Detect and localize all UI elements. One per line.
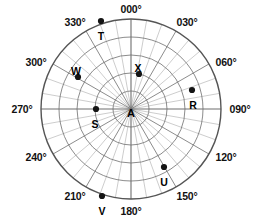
point-label-u: U [160,177,168,188]
point-label-r: R [189,100,197,111]
polar-plot-figure: 000°030°060°090°120°150°180°210°240°270°… [0,0,256,224]
angle-label-330: 330° [65,17,86,28]
angle-label-210: 210° [65,191,86,202]
angle-label-180: 180° [121,206,142,217]
angle-label-150: 150° [177,191,198,202]
angle-label-30: 030° [177,17,198,28]
point-label-v: V [98,206,105,217]
angle-label-300: 300° [26,57,47,68]
point-label-x: X [134,63,141,74]
angle-label-90: 090° [230,104,251,115]
point-label-s: S [91,119,98,130]
data-point-v [99,193,105,199]
point-label-t: T [98,31,104,42]
center-point-label-a: A [127,108,135,119]
angle-label-60: 060° [216,57,237,68]
data-point-s [93,106,99,112]
angle-label-270: 270° [12,104,33,115]
data-point-u [161,164,167,170]
angle-label-120: 120° [216,152,237,163]
angle-label-240: 240° [26,152,47,163]
point-label-w: W [71,66,81,77]
angle-label-0: 000° [121,4,142,15]
data-point-t [98,18,104,24]
data-point-r [189,87,195,93]
